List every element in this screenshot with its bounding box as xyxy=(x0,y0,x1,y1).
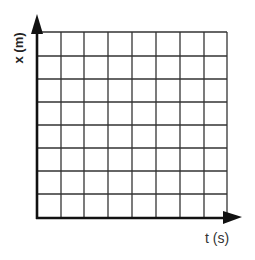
x-axis-label: t (s) xyxy=(205,230,229,246)
y-axis-label: x (m) xyxy=(11,32,26,63)
y-axis-arrow-icon xyxy=(31,14,43,34)
empty-position-time-graph: x (m) t (s) xyxy=(0,0,255,260)
x-axis-arrow-icon xyxy=(223,211,242,224)
grid xyxy=(37,32,227,218)
